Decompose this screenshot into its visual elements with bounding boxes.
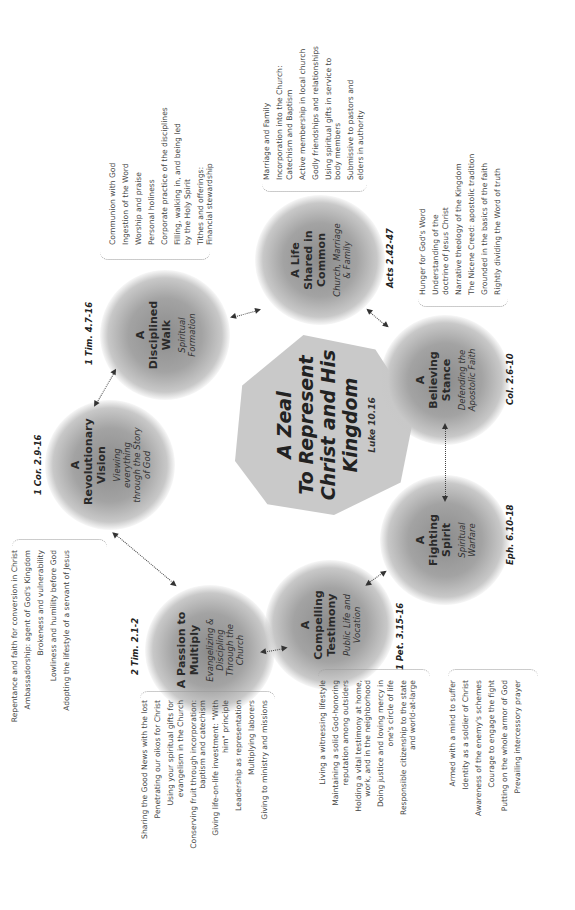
list-item: Narrative theology of the Kingdom [454,145,464,295]
node-subtitle: Viewing everything through the Story of … [112,425,152,505]
list-item: Incorporation into the Church: Catechism… [275,50,294,180]
list-item: Repentance and faith for conversion in C… [10,550,20,750]
list-item: Ambassadorship: agent of God's Kingdom [23,550,33,750]
list-item: Identity as a soldier of Christ [461,680,471,870]
list-item: Active membership in local church [298,10,308,180]
list-item: The Nicene Creed: apostolic tradition [467,145,477,295]
node-title: A Believing Stance [414,350,453,410]
list-item: Hunger for God's Word [418,145,428,295]
list-item: Penetrating our oikos for Christ [153,700,163,900]
list-item: Giving life-on-life investment: "With hi… [211,700,230,840]
node-subtitle: Evangelizing & Discipling Through the Ch… [205,615,245,685]
item-list-fighting-spirit: Armed with a mind to suffer Identity as … [448,680,526,870]
dotted-brace [418,298,508,307]
center-reference: Luke 10.16 [367,397,377,453]
list-item: Personal holiness [147,15,157,245]
list-item: Godly friendships and relationships [311,10,321,180]
list-item: Worship and praise [134,15,144,245]
item-list-passion-to-multiply: Sharing the Good News with the lost Pene… [140,700,273,900]
center-title-line: A Zeal [273,391,295,458]
node-subtitle: Church, Marriage & Family [332,220,352,300]
connector-arrow [232,310,259,318]
list-item: Prevailing intercessory prayer [513,680,523,870]
list-item: Ingestion of the Word [121,15,131,245]
list-item: Filling, walking in, and being led by th… [173,115,192,245]
list-item: Sharing the Good News with the lost [140,700,150,900]
node-title: A Revolutionary Vision [69,425,108,505]
list-item: Submissive to pastors and elders in auth… [346,70,365,180]
node-disciplined-walk: A Disciplined Walk Spiritual Formation [100,270,230,400]
list-item: Lowliness and humility before God [49,550,59,750]
node-subtitle: Public Life and Vocation [342,590,362,660]
dotted-brace [262,183,367,192]
dotted-brace [318,669,430,678]
node-reference: 1 Pet. 3.15-16 [395,603,405,670]
node-reference: 1 Tim. 4.7-16 [84,302,94,365]
list-item: Communion with God [108,15,118,245]
connector-arrow [114,533,176,585]
list-item: Conserving fruit through incorporation: … [189,700,208,860]
node-reference: Eph. 6.10-18 [505,505,515,565]
connector-arrow [367,310,387,327]
node-reference: Col. 2.6-10 [505,353,515,405]
dotted-brace [140,691,275,700]
center-title-line: Christ and His [317,350,339,501]
list-item: Maintaining a solid God-honoring reputat… [331,680,350,820]
node-reference: 1 Cor. 2.9-16 [33,434,43,495]
list-item: Using your spiritual gifts for evangelis… [166,700,185,820]
list-item: Marriage and Family [262,10,272,180]
list-item: Armed with a mind to suffer [448,680,458,870]
dotted-brace [448,669,538,678]
node-reference: 2 Tim. 2.1-2 [130,618,140,675]
node-subtitle: Defending the Apostolic Faith [457,340,477,420]
list-item: Using spiritual gifts in service to body… [324,50,343,180]
item-list-believing-stance: Hunger for God's Word Understanding of t… [418,145,506,295]
connector-arrow [445,425,446,500]
list-item: Holding a vital testimony at home, work,… [354,680,373,830]
list-item: Brokeness and vulnerability [36,550,46,750]
node-reference: Acts 2.42-47 [385,228,395,288]
center-title-line: Kingdom [339,378,361,473]
node-title: A Fighting Spirit [414,510,453,570]
item-list-revolutionary-vision: Repentance and faith for conversion in C… [10,550,75,750]
list-item: Understanding of the doctrine of Jesus C… [431,185,450,295]
list-item: Courage to engage the fight [487,680,497,870]
item-list-compelling-testimony: Living a witnessing lifestyle Maintainin… [318,680,421,880]
list-item: Living a witnessing lifestyle [318,680,328,880]
node-title: A Compelling Testimony [299,585,338,665]
node-subtitle: Spiritual Warfare [457,515,477,565]
list-item: Responsible citizenship to the state and… [399,680,418,820]
list-item: Grounded in the basics of the faith [480,145,490,295]
item-list-disciplined-walk: Communion with God Ingestion of the Word… [108,15,218,245]
center-title-line: To Represent [295,355,317,494]
diagram-canvas: A Zeal To Represent Christ and His Kingd… [0,0,575,910]
node-life-shared: A Life Shared in Common Church, Marriage… [255,195,385,325]
node-title: A Passion to Multiply [175,610,201,690]
dotted-brace [100,251,210,260]
list-item: Tithes and offerings: Financial stewards… [196,135,215,245]
list-item: Awareness of the enemy's schemes [474,680,484,870]
list-item: Leadership as representation [234,700,244,900]
node-title: A Disciplined Walk [134,295,173,375]
node-revolutionary-vision: A Revolutionary Vision Viewing everythin… [45,400,175,530]
list-item: Putting on the whole armor of God [500,680,510,870]
item-list-life-shared: Marriage and Family Incorporation into t… [262,10,369,180]
list-item: Giving to ministry and missions [260,700,270,900]
list-item: Adopting the lifestyle of a servant of J… [62,550,72,750]
list-item: Corporate practice of the disciplines [160,15,170,245]
dotted-brace [12,539,107,548]
node-subtitle: Spiritual Formation [177,305,197,365]
list-item: Doing justice and loving mercy in one's … [376,680,395,810]
list-item: Multiplying laborers [247,700,257,900]
list-item: Rightly dividing the Word of truth [493,145,503,295]
node-title: A Life Shared in Common [289,225,328,295]
